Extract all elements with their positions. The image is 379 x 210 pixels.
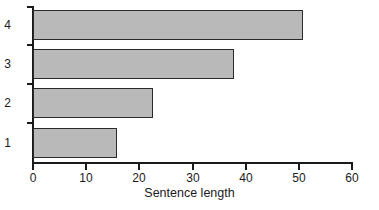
x-axis-tick — [85, 163, 87, 170]
x-axis-tick — [192, 163, 194, 170]
x-axis-tick-label-10: 10 — [66, 172, 106, 185]
x-axis-tick-label-50: 50 — [279, 172, 319, 185]
x-axis-tick — [138, 163, 140, 170]
x-axis-tick-label-30: 30 — [173, 172, 213, 185]
x-axis-tick-label-20: 20 — [119, 172, 159, 185]
y-axis-label-4: 4 — [0, 19, 11, 31]
y-axis-tick — [27, 83, 34, 85]
x-axis-tick-label-0: 0 — [13, 172, 53, 185]
y-axis-label-3: 3 — [0, 58, 11, 70]
x-axis-tick — [245, 163, 247, 170]
plot-area: 4 3 2 1 0 10 20 30 40 50 60 — [33, 6, 352, 163]
x-axis-tick-label-40: 40 — [226, 172, 266, 185]
x-axis-tick-label-60: 60 — [332, 172, 372, 185]
y-axis-tick — [27, 122, 34, 124]
x-axis-tick — [351, 163, 353, 170]
y-axis-label-1: 1 — [0, 137, 11, 149]
bar-chart-figure: 4 3 2 1 0 10 20 30 40 50 60 Sentence len… — [0, 0, 379, 210]
x-axis-tick — [298, 163, 300, 170]
x-axis-tick — [32, 163, 34, 170]
y-axis-label-2: 2 — [0, 97, 11, 109]
x-axis-title: Sentence length — [0, 186, 379, 200]
y-axis-tick — [27, 6, 34, 8]
bar-category-4[interactable] — [33, 10, 303, 40]
bar-category-1[interactable] — [33, 128, 117, 158]
bar-category-2[interactable] — [33, 88, 153, 118]
y-axis-tick — [27, 44, 34, 46]
bar-category-3[interactable] — [33, 49, 234, 79]
